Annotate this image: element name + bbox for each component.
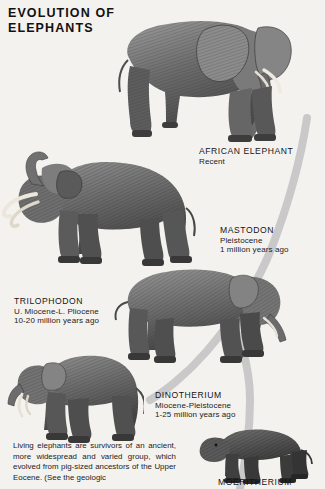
caption-name: TRILOPHODON — [14, 296, 99, 307]
caption-dinotherium: DINOTHERIUM Miocene-Pleistocene 1-25 mil… — [155, 390, 235, 420]
figure-dinotherium — [4, 344, 144, 444]
caption-line1: Miocene-Pleistocene — [155, 401, 235, 411]
caption-name: DINOTHERIUM — [155, 390, 235, 401]
caption-line1: U. Miocene-L. Pliocene — [14, 307, 99, 317]
caption-african-elephant: AFRICAN ELEPHANT Recent — [199, 146, 293, 166]
illustration-page: EVOLUTION OF ELEPHANTS — [0, 0, 325, 489]
caption-name: AFRICAN ELEPHANT — [199, 146, 293, 157]
figure-moeritherium — [196, 420, 316, 484]
page-title: EVOLUTION OF ELEPHANTS — [8, 6, 115, 36]
caption-trilophodon: TRILOPHODON U. Miocene-L. Pliocene 10-20… — [14, 296, 99, 326]
caption-line1: Pleistocene — [220, 236, 289, 246]
caption-mastodon: MASTODON Pleistocene 1 million years ago — [220, 225, 289, 255]
body-paragraph: Living elephants are survivors of an anc… — [13, 441, 176, 483]
caption-name: MOERITHERIUM — [218, 477, 292, 488]
caption-line2: 1-25 million years ago — [155, 410, 235, 420]
caption-line2: 10-20 million years ago — [14, 316, 99, 326]
caption-line2: 1 million years ago — [220, 245, 289, 255]
caption-moeritherium: MOERITHERIUM — [218, 477, 292, 488]
caption-line1: Recent — [199, 157, 293, 167]
figure-african-elephant — [108, 4, 308, 146]
caption-name: MASTODON — [220, 225, 289, 236]
figure-mastodon — [2, 148, 202, 274]
